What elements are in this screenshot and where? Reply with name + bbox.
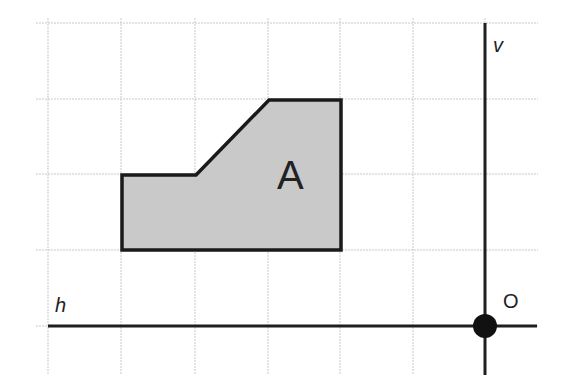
coordinate-diagram: h v O A [0, 0, 561, 387]
shape-label-a: A [277, 153, 304, 197]
origin-point [473, 314, 497, 338]
axis-label-v: v [493, 34, 504, 56]
axis-label-h: h [55, 294, 66, 316]
origin-label: O [503, 290, 519, 312]
shape-a [122, 100, 341, 250]
